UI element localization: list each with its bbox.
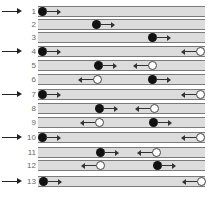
- track-strip: [38, 46, 205, 57]
- velocity-left-arrow-icon: [79, 79, 93, 80]
- frame-row-6: 6: [0, 74, 213, 86]
- white-ball-icon: [196, 133, 205, 142]
- track-strip: [38, 32, 205, 43]
- velocity-right-arrow-icon: [104, 152, 118, 153]
- velocity-right-arrow-icon: [103, 108, 117, 109]
- frame-row-8: 8: [0, 103, 213, 115]
- velocity-left-arrow-icon: [138, 152, 152, 153]
- frame-number: 5: [22, 60, 36, 72]
- velocity-right-arrow-icon: [156, 79, 170, 80]
- white-ball-icon: [196, 90, 205, 99]
- frame-row-12: 12: [0, 160, 213, 172]
- track-strip: [38, 60, 205, 71]
- velocity-right-arrow-icon: [102, 65, 116, 66]
- frame-row-5: 5: [0, 60, 213, 72]
- frame-row-1: 1: [0, 6, 213, 18]
- velocity-right-arrow-icon: [100, 24, 114, 25]
- velocity-left-arrow-icon: [182, 137, 196, 138]
- track-strip: [38, 89, 205, 100]
- velocity-left-arrow-icon: [134, 65, 148, 66]
- frame-number: 6: [22, 74, 36, 86]
- white-ball-icon: [148, 61, 157, 70]
- velocity-left-arrow-icon: [81, 122, 95, 123]
- velocity-right-arrow-icon: [46, 11, 60, 12]
- frame-row-11: 11: [0, 147, 213, 159]
- white-ball-icon: [150, 104, 159, 113]
- pointer-arrow-icon: [2, 11, 22, 13]
- velocity-right-arrow-icon: [157, 122, 171, 123]
- white-ball-icon: [93, 75, 102, 84]
- track-strip: [38, 19, 205, 30]
- pointer-arrow-icon: [2, 181, 22, 183]
- velocity-right-arrow-icon: [46, 51, 60, 52]
- frame-number: 3: [22, 32, 36, 44]
- white-ball-icon: [197, 177, 206, 186]
- velocity-left-arrow-icon: [82, 165, 96, 166]
- pointer-arrow-icon: [2, 137, 22, 139]
- velocity-left-arrow-icon: [182, 51, 196, 52]
- track-strip: [38, 176, 205, 187]
- pointer-arrow-icon: [2, 94, 22, 96]
- frame-number: 13: [22, 176, 36, 188]
- frame-row-13: 13: [0, 176, 213, 188]
- track-strip: [38, 160, 205, 171]
- frame-number: 4: [22, 46, 36, 58]
- frame-number: 12: [22, 160, 36, 172]
- frame-number: 11: [22, 147, 36, 159]
- white-ball-icon: [152, 148, 161, 157]
- frame-row-10: 10: [0, 132, 213, 144]
- frame-row-2: 2: [0, 19, 213, 31]
- track-strip: [38, 132, 205, 143]
- track-strip: [38, 147, 205, 158]
- white-ball-icon: [96, 161, 105, 170]
- velocity-right-arrow-icon: [46, 94, 60, 95]
- velocity-right-arrow-icon: [46, 137, 60, 138]
- frame-number: 9: [22, 117, 36, 129]
- frame-number: 2: [22, 19, 36, 31]
- velocity-left-arrow-icon: [136, 108, 150, 109]
- frame-number: 7: [22, 89, 36, 101]
- frame-row-3: 3: [0, 32, 213, 44]
- frame-row-4: 4: [0, 46, 213, 58]
- track-strip: [38, 74, 205, 85]
- velocity-left-arrow-icon: [183, 181, 197, 182]
- velocity-left-arrow-icon: [182, 94, 196, 95]
- velocity-right-arrow-icon: [47, 181, 61, 182]
- track-strip: [38, 6, 205, 17]
- velocity-right-arrow-icon: [156, 37, 170, 38]
- frame-row-7: 7: [0, 89, 213, 101]
- frame-number: 8: [22, 103, 36, 115]
- pointer-arrow-icon: [2, 51, 22, 53]
- white-ball-icon: [196, 47, 205, 56]
- frame-number: 10: [22, 132, 36, 144]
- frame-number: 1: [22, 6, 36, 18]
- track-strip: [38, 103, 205, 114]
- white-ball-icon: [95, 118, 104, 127]
- track-strip: [38, 117, 205, 128]
- velocity-right-arrow-icon: [161, 165, 175, 166]
- frame-row-9: 9: [0, 117, 213, 129]
